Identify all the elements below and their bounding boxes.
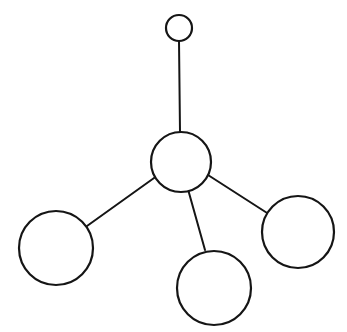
node-top (166, 15, 192, 41)
node-center (151, 132, 211, 192)
tree-diagram (0, 0, 347, 332)
node-bottom (177, 251, 251, 325)
nodes (19, 15, 334, 325)
edge-top-center (179, 41, 180, 132)
node-left (19, 211, 93, 285)
node-right (262, 196, 334, 268)
